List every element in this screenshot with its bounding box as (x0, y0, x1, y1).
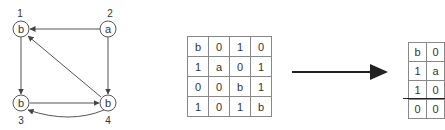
svg-text:b: b (18, 23, 24, 35)
svg-text:3: 3 (18, 115, 24, 126)
matrix-cell: b (230, 77, 251, 97)
matrix-row: 1 a 0 1 (188, 57, 272, 77)
matrix-cell: 0 (427, 81, 445, 100)
matrix-cell: b (251, 97, 272, 117)
matrix-row: b 0 (409, 43, 445, 62)
matrix-cell: 0 (188, 77, 209, 97)
matrix-row: 0 0 b 1 (188, 77, 272, 97)
matrix-cell: 0 (409, 100, 427, 119)
svg-text:b: b (18, 97, 24, 109)
matrix-row: 1 a (409, 62, 445, 81)
svg-text:4: 4 (105, 115, 111, 126)
node-1: b 1 (13, 8, 29, 37)
row-separator-line (403, 98, 445, 99)
edge-4-to-3 (28, 110, 104, 117)
matrix-cell: 0 (427, 43, 445, 62)
edge-4-to-1 (28, 36, 101, 97)
matrix-cell: 1 (409, 81, 427, 100)
matrix-cell: 1 (188, 57, 209, 77)
matrix-row: 1 0 (409, 81, 445, 100)
matrix-cell: 1 (251, 77, 272, 97)
directed-graph: b 1 a 2 b 3 b 4 (0, 0, 150, 130)
matrix-cell: 1 (230, 37, 251, 57)
adjacency-matrix-left: b 0 1 0 1 a 0 1 0 0 b 1 1 0 1 b (187, 36, 272, 117)
svg-text:b: b (105, 97, 111, 109)
matrix-cell: 1 (188, 97, 209, 117)
matrix-cell: b (188, 37, 209, 57)
matrix-cell: b (409, 43, 427, 62)
matrix-row: 1 0 1 b (188, 97, 272, 117)
matrix-cell: 0 (251, 37, 272, 57)
matrix-cell: 0 (209, 77, 230, 97)
transform-arrow-icon (290, 60, 390, 84)
matrix-cell: 0 (209, 97, 230, 117)
node-3: b 3 (13, 95, 29, 126)
matrix-cell: 1 (230, 97, 251, 117)
adjacency-matrix-right: b 0 1 a 1 0 0 0 (408, 42, 445, 119)
matrix-cell: a (209, 57, 230, 77)
matrix-row: b 0 1 0 (188, 37, 272, 57)
node-2: a 2 (100, 8, 116, 37)
matrix-cell: 0 (209, 37, 230, 57)
svg-text:a: a (105, 23, 112, 35)
matrix-cell: 0 (427, 100, 445, 119)
matrix-row: 0 0 (409, 100, 445, 119)
matrix-cell: 1 (251, 57, 272, 77)
svg-text:1: 1 (17, 8, 23, 19)
matrix-cell: a (427, 62, 445, 81)
matrix-cell: 0 (230, 57, 251, 77)
matrix-cell: 1 (409, 62, 427, 81)
svg-text:2: 2 (107, 8, 113, 19)
